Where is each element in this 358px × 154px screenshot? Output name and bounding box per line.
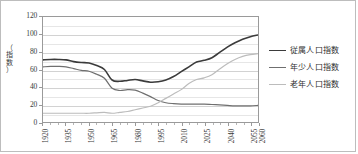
y-axis-tick-label: 40 [30, 84, 37, 92]
series-line [43, 54, 258, 114]
x-axis-tick-label: 2010 [181, 129, 189, 143]
legend-item: 老年人口指数 [269, 76, 355, 93]
x-axis-tick-mark [112, 123, 113, 126]
legend-label: 年少人口指数 [290, 64, 339, 72]
x-axis-tick-mark [151, 123, 152, 125]
legend-label: 老年人口指数 [290, 81, 339, 89]
x-axis-tick-label: 2025 [205, 129, 213, 143]
x-axis-tick-mark [220, 123, 221, 125]
x-axis-tick-mark [89, 123, 90, 126]
x-axis-tick-mark [182, 123, 183, 126]
series-line [43, 66, 258, 105]
x-axis-tick-mark [189, 123, 190, 125]
series-layer [43, 17, 258, 122]
x-axis-tick-mark [205, 123, 206, 126]
x-axis-tick-mark [104, 123, 105, 125]
x-axis-tick-mark [120, 123, 121, 125]
y-axis: 020406080100120 [1, 16, 42, 123]
chart-figure: （指数） 020406080100120 1920193519501965198… [0, 0, 356, 152]
x-axis-tick-label: 1965 [112, 129, 120, 143]
legend-swatch [269, 67, 286, 68]
x-axis-tick-label: 1920 [42, 129, 50, 143]
x-axis-tick-mark [143, 123, 144, 125]
legend-swatch [269, 50, 286, 51]
x-axis-tick-mark [251, 123, 252, 126]
x-axis-tick-mark [58, 123, 59, 125]
y-axis-tick-label: 20 [30, 101, 37, 109]
x-axis-tick-label: 2040 [228, 129, 236, 143]
x-axis-tick-mark [42, 123, 43, 126]
x-axis-tick-mark [73, 123, 74, 125]
x-axis-tick-mark [228, 123, 229, 126]
legend-item: 年少人口指数 [269, 59, 355, 76]
legend-item: 従属人口指数 [269, 42, 355, 59]
chart-legend: 従属人口指数年少人口指数老年人口指数 [269, 42, 355, 93]
x-axis-tick-mark [158, 123, 159, 126]
x-axis-tick-mark [174, 123, 175, 125]
x-axis-tick-mark [81, 123, 82, 125]
x-axis: 1920193519501965198019952010202520402055… [42, 123, 259, 154]
x-axis-tick-label: 1980 [135, 129, 143, 143]
y-axis-tick-label: 0 [33, 119, 37, 127]
x-axis-tick-mark [135, 123, 136, 126]
y-axis-tick-label: 60 [30, 66, 37, 74]
y-axis-tick-label: 120 [26, 12, 37, 20]
legend-label: 従属人口指数 [290, 47, 339, 55]
x-axis-tick-mark [96, 123, 97, 125]
x-axis-tick-mark [236, 123, 237, 125]
y-axis-tick-label: 100 [26, 30, 37, 38]
x-axis-tick-mark [197, 123, 198, 125]
x-axis-tick-mark [259, 123, 260, 126]
x-axis-tick-mark [50, 123, 51, 125]
y-axis-tick-label: 80 [30, 48, 37, 56]
x-axis-tick-mark [213, 123, 214, 125]
series-line [43, 35, 258, 82]
x-axis-tick-label: 1950 [88, 129, 96, 143]
legend-swatch [269, 84, 286, 85]
x-axis-tick-mark [65, 123, 66, 126]
x-axis-tick-mark [127, 123, 128, 125]
x-axis-tick-label: 1995 [158, 129, 166, 143]
plot-area [42, 16, 259, 123]
x-axis-tick-mark [166, 123, 167, 125]
x-axis-tick-mark [244, 123, 245, 125]
x-axis-tick-label: 1935 [65, 129, 73, 143]
x-axis-tick-label: 2060 [259, 129, 267, 143]
